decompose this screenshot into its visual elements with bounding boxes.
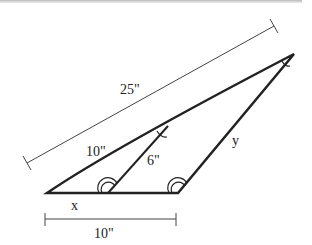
label-6: 6" [147,153,160,168]
label-25: 25" [120,82,140,97]
dimension-line-base [45,213,176,226]
label-10-base: 10" [94,226,114,241]
triangle-diagram: 25" 10" 6" y x 10" [0,0,312,245]
label-10-upper: 10" [86,144,106,159]
dimension-line-25 [23,19,278,170]
outer-triangle [47,54,294,193]
diagram: 25" 10" 6" y x 10" [0,0,312,245]
label-y: y [232,133,239,148]
label-x: x [71,198,78,213]
